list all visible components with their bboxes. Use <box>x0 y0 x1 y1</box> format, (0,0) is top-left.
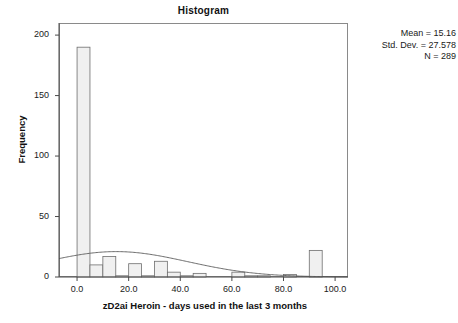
histogram-bar <box>193 273 206 277</box>
histogram-bar <box>309 250 322 277</box>
y-tick-label: 50 <box>15 211 49 221</box>
y-tick-label: 200 <box>15 29 49 39</box>
histogram-bar <box>129 264 142 277</box>
x-tick-label: 0.0 <box>57 284 97 294</box>
x-tick-label: 80.0 <box>263 284 303 294</box>
x-axis-title: zD2ai Heroin - days used in the last 3 m… <box>40 300 370 311</box>
axis-ticks <box>55 23 348 281</box>
y-axis-title: Frequency <box>16 100 27 180</box>
histogram-bar <box>154 261 167 277</box>
y-tick-label: 150 <box>15 90 49 100</box>
histogram-bar <box>77 47 90 277</box>
histogram-bar <box>90 265 103 277</box>
histogram-bar <box>103 256 116 277</box>
x-tick-label: 100.0 <box>315 284 355 294</box>
x-tick-label: 60.0 <box>212 284 252 294</box>
histogram-bar <box>167 272 180 277</box>
x-tick-label: 40.0 <box>160 284 200 294</box>
x-tick-label: 20.0 <box>109 284 149 294</box>
y-tick-label: 0 <box>15 271 49 281</box>
histogram-bars <box>77 47 322 277</box>
histogram-bar <box>232 272 245 277</box>
histogram-chart: Histogram Mean = 15.16 Std. Dev. = 27.57… <box>0 0 458 323</box>
plot-graphics <box>0 0 458 323</box>
